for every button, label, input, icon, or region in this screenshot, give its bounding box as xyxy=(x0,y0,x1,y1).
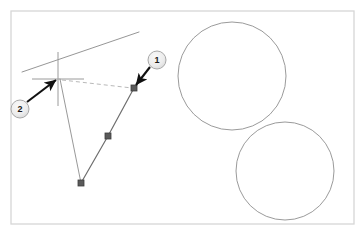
callout-badge-1-label: 1 xyxy=(154,55,159,65)
vertex-square-marker[interactable] xyxy=(78,180,84,186)
vertex-square-marker[interactable] xyxy=(131,85,137,91)
drawing-canvas[interactable]: 1 2 xyxy=(0,0,361,236)
drawing-frame[interactable] xyxy=(11,11,354,224)
callout-badge-1[interactable]: 1 xyxy=(148,51,166,69)
callout-badge-2-label: 2 xyxy=(17,104,22,114)
callout-badge-2[interactable]: 2 xyxy=(11,100,29,118)
vertex-square-marker[interactable] xyxy=(105,133,111,139)
figure-root: 1 2 xyxy=(0,0,361,236)
